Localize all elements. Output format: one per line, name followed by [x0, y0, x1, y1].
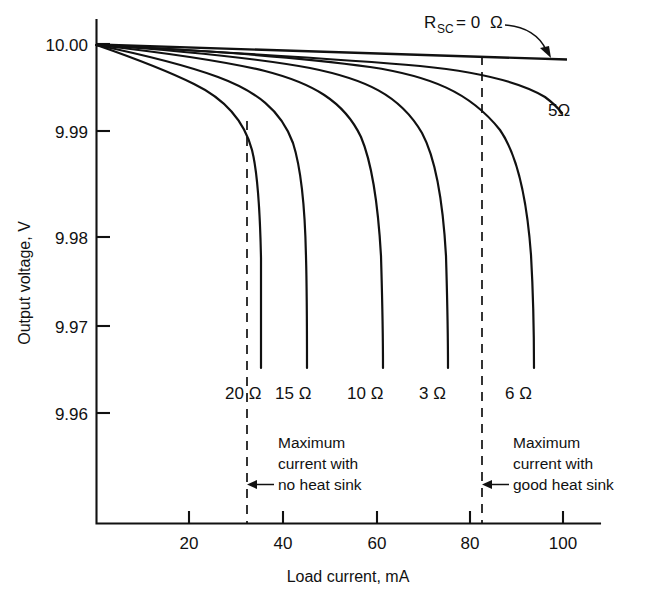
curves-group	[97, 45, 568, 369]
y-tick-label-9-97: 9.97	[55, 318, 88, 337]
x-tick-label-20: 20	[180, 534, 199, 553]
no-heat-sink-line-2: current with	[278, 455, 358, 472]
curve-label-15-ohm: 15 Ω	[275, 384, 311, 403]
no-heat-sink-arrowhead-icon	[247, 480, 257, 489]
good-heat-sink-arrowhead-icon	[482, 480, 492, 489]
curve-labels-group: 20 Ω 15 Ω 10 Ω 3 Ω 6 Ω 5Ω	[225, 101, 570, 403]
y-tick-label-10-00: 10.00	[45, 36, 88, 55]
rsc-callout-leader-line	[505, 25, 546, 50]
x-tick-label-40: 40	[274, 534, 293, 553]
curve-rsc-0-ohm	[97, 45, 568, 60]
curve-20-ohm	[97, 45, 262, 368]
rsc-callout-equals-zero: = 0	[456, 13, 480, 32]
good-heat-sink-line-3: good heat sink	[513, 476, 614, 493]
y-axis-ticks	[97, 44, 111, 413]
curve-label-20-ohm: 20 Ω	[225, 384, 261, 403]
x-tick-label-60: 60	[368, 534, 387, 553]
rsc-callout-r: R	[424, 13, 436, 32]
curve-label-10-ohm: 10 Ω	[347, 384, 383, 403]
y-axis-title: Output voltage, V	[16, 221, 33, 345]
good-heat-sink-line-1: Maximum	[513, 434, 580, 451]
x-axis-title: Load current, mA	[287, 568, 410, 585]
x-tick-label-80: 80	[461, 534, 480, 553]
curve-3-ohm	[97, 45, 449, 368]
curve-5-ohm	[97, 45, 563, 113]
no-heat-sink-line-3: no heat sink	[278, 476, 362, 493]
curve-label-6-ohm: 6 Ω	[505, 384, 532, 403]
good-heat-sink-annotation: Maximum current with good heat sink	[482, 434, 614, 493]
curve-15-ohm	[97, 45, 308, 368]
x-tick-label-100: 100	[549, 534, 577, 553]
curve-10-ohm	[97, 45, 384, 368]
rsc-callout-arrowhead-icon	[540, 46, 551, 58]
y-tick-label-9-96: 9.96	[55, 405, 88, 424]
axes-group: 10.00 9.99 9.98 9.97 9.96 20 40 60 80 10…	[16, 20, 600, 585]
y-tick-label-9-99: 9.99	[55, 123, 88, 142]
curve-label-3-ohm: 3 Ω	[419, 384, 446, 403]
good-heat-sink-line-2: current with	[513, 455, 593, 472]
x-axis-tick-labels: 20 40 60 80 100	[180, 534, 578, 553]
rsc-zero-callout: R SC = 0 Ω	[424, 13, 551, 58]
no-heat-sink-line-1: Maximum	[278, 434, 345, 451]
y-axis-tick-labels: 10.00 9.99 9.98 9.97 9.96	[45, 36, 88, 424]
rsc-callout-subscript: SC	[437, 22, 454, 36]
y-tick-label-9-98: 9.98	[55, 229, 88, 248]
curve-label-5-ohm: 5Ω	[548, 101, 570, 120]
rsc-callout-ohm-unit: Ω	[490, 13, 503, 32]
figure-container: 10.00 9.99 9.98 9.97 9.96 20 40 60 80 10…	[0, 0, 650, 593]
x-axis-ticks	[189, 511, 563, 524]
output-voltage-vs-load-current-chart: 10.00 9.99 9.98 9.97 9.96 20 40 60 80 10…	[0, 0, 650, 593]
curve-6-ohm	[97, 45, 535, 368]
no-heat-sink-annotation: Maximum current with no heat sink	[247, 434, 362, 493]
